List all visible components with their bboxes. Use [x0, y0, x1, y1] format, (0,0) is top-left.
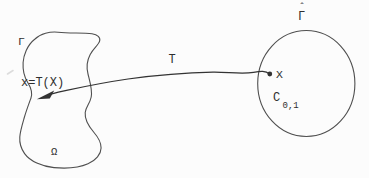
map-arrow-curve — [51, 71, 270, 94]
stray-scan-mark — [8, 71, 14, 75]
point-X-label: X — [276, 68, 283, 81]
mapped-point-label: x=T(X) — [21, 76, 64, 90]
omega-region-label: Ω — [51, 146, 57, 158]
annulus-region-label-subscript: 0,1 — [283, 101, 299, 111]
computational-domain-circle — [258, 31, 355, 137]
point-X-dot — [267, 72, 272, 77]
physical-domain-outline — [20, 32, 101, 168]
gamma-boundary-label: Γ — [18, 35, 25, 48]
scanned-figure-page: Γ x=T(X) Ω T ˆ Γ X C 0,1 — [0, 0, 369, 178]
gamma-hat-boundary-label: Γ — [298, 10, 305, 24]
transformation-label: T — [169, 53, 176, 67]
annulus-region-label-main: C — [273, 91, 280, 105]
map-arrowhead — [37, 90, 54, 99]
mapping-diagram: Γ x=T(X) Ω T ˆ Γ X C 0,1 — [0, 0, 369, 178]
